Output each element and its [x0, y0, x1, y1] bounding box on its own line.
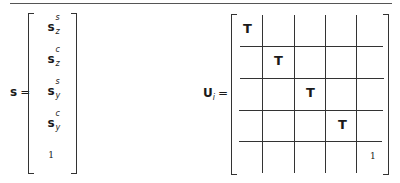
- matrix-u-label: Ui=: [203, 86, 228, 102]
- matrix-left-bracket: [231, 14, 237, 175]
- matrix-diag-1: T: [243, 21, 252, 36]
- grid-vline-2: [294, 15, 295, 173]
- grid-vline-1: [262, 15, 263, 173]
- grid-vline-3: [325, 15, 326, 173]
- grid-hline-3: [239, 110, 383, 111]
- vector-entry-szc: scz: [31, 52, 71, 66]
- matrix-right-bracket: [383, 14, 389, 175]
- matrix-diag-5: 1: [370, 151, 376, 161]
- vector-right-bracket: [71, 13, 77, 174]
- matrix-diag-2: T: [274, 53, 283, 68]
- matrix-diag-4: T: [338, 117, 347, 132]
- grid-hline-4: [239, 141, 382, 142]
- top-rule: [10, 3, 392, 4]
- vector-entry-one: 1: [31, 150, 71, 160]
- grid-vline-4: [356, 15, 357, 173]
- vector-entry-sys: ssy: [31, 84, 71, 98]
- vector-entry-syc: scy: [31, 116, 71, 130]
- matrix-diag-3: T: [306, 85, 315, 100]
- vector-entry-szs: ssz: [31, 20, 71, 34]
